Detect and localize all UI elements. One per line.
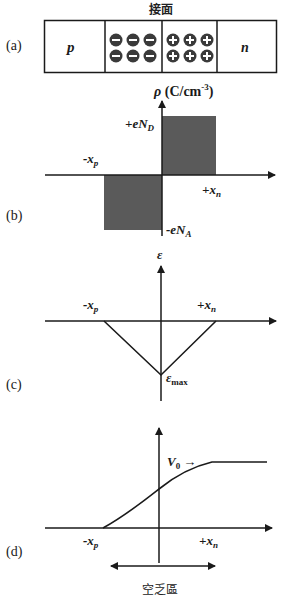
panel-c-electric-field: (c) ε -xp +xn εmax <box>6 247 276 401</box>
p-region-label: p <box>65 39 75 55</box>
negative-ion-icon <box>127 50 140 63</box>
negative-ions <box>110 34 157 63</box>
panel-d-potential: (d) V0→ -xp +xn 空乏區 <box>6 428 272 597</box>
negative-charge-block <box>104 175 162 230</box>
xn-label: +xn <box>197 297 216 314</box>
potential-profile <box>103 462 267 528</box>
xn-label: +xn <box>199 533 218 550</box>
pos-charge-level-label: +eND <box>125 116 155 133</box>
positive-ions <box>167 34 214 63</box>
positive-ion-icon <box>184 34 197 47</box>
positive-ion-icon <box>167 34 180 47</box>
junction-label: 接面 <box>149 2 173 17</box>
positive-ion-icon <box>167 50 180 63</box>
field-max-label: εmax <box>166 370 188 387</box>
panel-a: (a) 接面 p n <box>6 2 277 73</box>
xp-label: -xp <box>83 533 99 550</box>
positive-ion-icon <box>201 34 214 47</box>
rho-axis-label: ρ (C/cm-3) <box>153 82 214 100</box>
negative-ion-icon <box>110 34 123 47</box>
depletion-region-label: 空乏區 <box>142 583 178 597</box>
positive-ion-icon <box>201 50 214 63</box>
field-axis-label: ε <box>157 247 163 262</box>
negative-ion-icon <box>110 50 123 63</box>
v0-label: V0→ <box>167 454 196 471</box>
positive-ion-icon <box>184 50 197 63</box>
panel-b-label: (b) <box>6 208 23 224</box>
xp-label: -xp <box>83 297 99 314</box>
neg-charge-level-label: -eNA <box>166 222 192 239</box>
field-profile <box>104 321 216 375</box>
panel-a-label: (a) <box>6 38 22 54</box>
negative-ion-icon <box>144 34 157 47</box>
negative-ion-icon <box>127 34 140 47</box>
panel-b-charge-density: (b) ρ (C/cm-3) +eND -eNA -xp +xn <box>6 82 275 239</box>
panel-c-label: (c) <box>6 377 22 393</box>
xp-label: -xp <box>83 151 99 168</box>
negative-ion-icon <box>144 50 157 63</box>
panel-d-label: (d) <box>6 544 23 560</box>
n-region-label: n <box>241 40 249 55</box>
pn-junction-diagram: (a) 接面 p n (b) <box>0 0 286 601</box>
positive-charge-block <box>162 116 216 175</box>
xn-label: +xn <box>202 182 221 199</box>
